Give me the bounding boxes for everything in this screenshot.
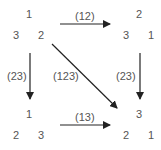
node-bl-left: 2 <box>13 129 19 141</box>
node-bl-top: 1 <box>26 108 32 120</box>
node-tr-top: 2 <box>136 8 142 20</box>
node-br-top: 3 <box>136 108 142 120</box>
node-tl-top: 1 <box>26 8 32 20</box>
node-tr-right: 1 <box>148 29 154 41</box>
edge-label-left: (23) <box>7 70 27 82</box>
edge-label-right: (23) <box>116 70 136 82</box>
edge-label-top: (12) <box>75 10 95 22</box>
edge-label-diagonal: (123) <box>53 70 79 82</box>
node-br-left: 2 <box>123 129 129 141</box>
edge-label-bottom: (13) <box>75 111 95 123</box>
node-tl-left: 3 <box>13 29 19 41</box>
node-tr-left: 3 <box>123 29 129 41</box>
node-br-right: 1 <box>148 129 154 141</box>
node-bl-right: 3 <box>38 129 44 141</box>
node-tl-right: 2 <box>38 29 44 41</box>
